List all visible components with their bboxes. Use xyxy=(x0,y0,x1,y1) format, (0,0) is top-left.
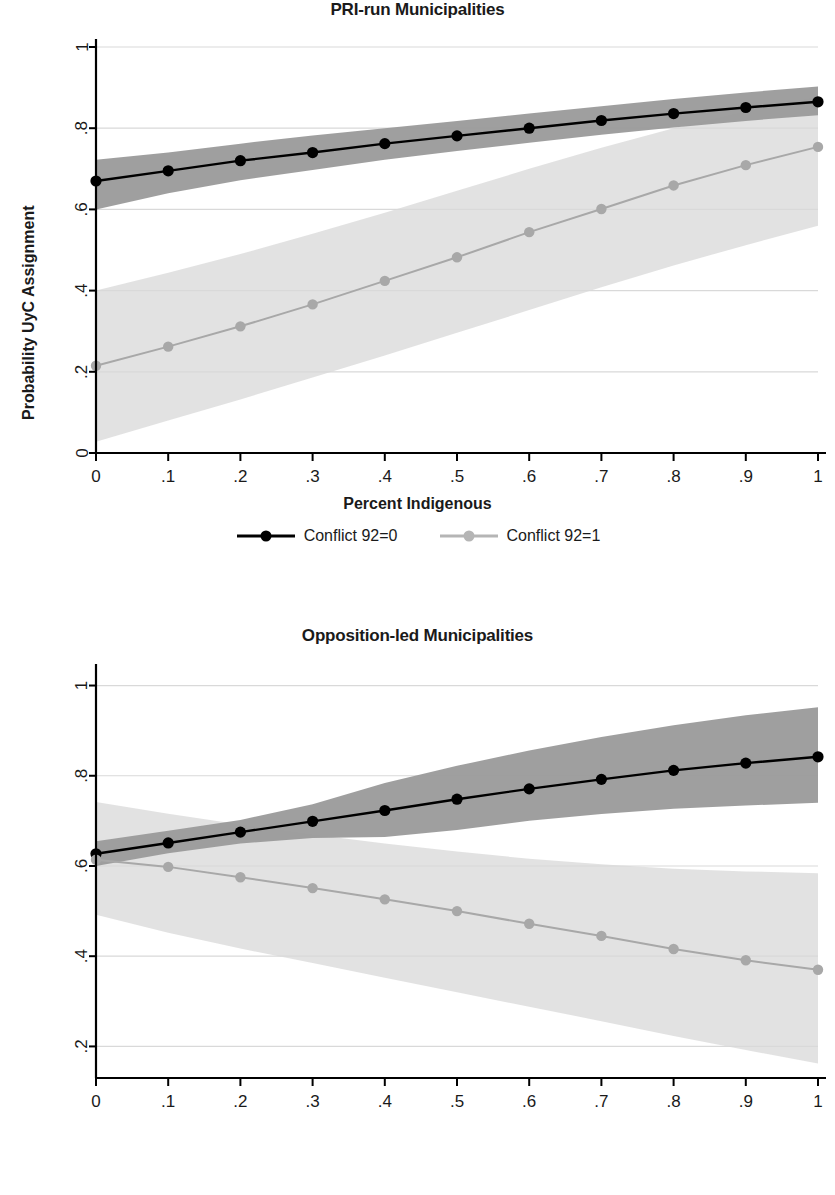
svg-text:.8: .8 xyxy=(667,1092,681,1111)
legend-entry-conflict-0[interactable]: Conflict 92=0 xyxy=(235,528,398,544)
svg-text:.1: .1 xyxy=(161,467,175,486)
svg-text:0: 0 xyxy=(91,1092,100,1111)
svg-text:.6: .6 xyxy=(522,467,536,486)
svg-text:1: 1 xyxy=(813,467,822,486)
black-line-marker-icon xyxy=(235,529,297,543)
svg-text:0: 0 xyxy=(91,467,100,486)
legend-label: Conflict 92=0 xyxy=(304,528,398,544)
svg-text:.4: .4 xyxy=(73,284,92,298)
svg-text:1: 1 xyxy=(813,1092,822,1111)
svg-text:.2: .2 xyxy=(233,467,247,486)
legend-entry-conflict-1[interactable]: Conflict 92=1 xyxy=(438,528,601,544)
svg-text:.7: .7 xyxy=(594,467,608,486)
svg-text:.6: .6 xyxy=(73,202,92,216)
svg-text:.2: .2 xyxy=(73,1039,92,1053)
plot-area: .2.4.6.810.1.2.3.4.5.6.7.8.91 xyxy=(0,648,835,1118)
svg-text:.3: .3 xyxy=(306,1092,320,1111)
svg-text:.4: .4 xyxy=(378,1092,392,1111)
svg-text:.8: .8 xyxy=(73,121,92,135)
svg-text:.9: .9 xyxy=(739,1092,753,1111)
chart-panel-opposition-led: Opposition-led Municipalities .2.4.6.810… xyxy=(0,600,835,1195)
plot-area: 0.2.4.6.810.1.2.3.4.5.6.7.8.91 xyxy=(0,18,835,488)
svg-text:.2: .2 xyxy=(233,1092,247,1111)
svg-text:.9: .9 xyxy=(739,467,753,486)
svg-text:.1: .1 xyxy=(161,1092,175,1111)
svg-text:.5: .5 xyxy=(450,467,464,486)
svg-text:.8: .8 xyxy=(667,467,681,486)
svg-text:.6: .6 xyxy=(73,859,92,873)
svg-text:.4: .4 xyxy=(378,467,392,486)
x-axis-title: Percent Indigenous xyxy=(0,495,835,513)
svg-text:1: 1 xyxy=(73,681,92,690)
svg-text:.2: .2 xyxy=(73,365,92,379)
panel-title: PRI-run Municipalities xyxy=(0,0,835,20)
svg-text:0: 0 xyxy=(73,448,92,457)
svg-text:.4: .4 xyxy=(73,949,92,963)
svg-text:1: 1 xyxy=(73,42,92,51)
svg-text:.8: .8 xyxy=(73,769,92,783)
panel-title: Opposition-led Municipalities xyxy=(0,626,835,646)
svg-text:.6: .6 xyxy=(522,1092,536,1111)
legend: Conflict 92=0 Conflict 92=1 xyxy=(0,528,835,544)
gray-line-marker-icon xyxy=(438,529,500,543)
y-axis-title: Probability UyC Assignment xyxy=(20,205,38,420)
svg-text:.7: .7 xyxy=(594,1092,608,1111)
svg-text:.3: .3 xyxy=(306,467,320,486)
chart-panel-pri-run: PRI-run Municipalities 0.2.4.6.810.1.2.3… xyxy=(0,0,835,580)
svg-text:.5: .5 xyxy=(450,1092,464,1111)
legend-label: Conflict 92=1 xyxy=(507,528,601,544)
